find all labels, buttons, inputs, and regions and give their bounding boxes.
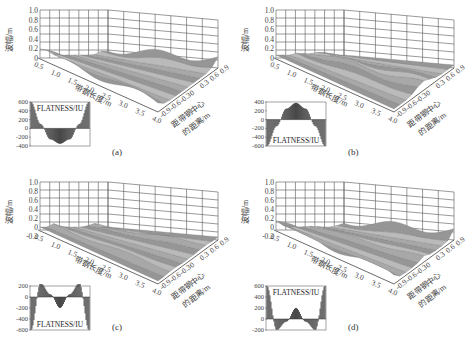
z-tick: 1.0 [29,178,39,187]
inset-tick: -400 [252,133,264,140]
x-tick: 3.5 [134,278,146,290]
inset-tick: 400 [254,100,264,105]
y-tick: 0.6 [208,70,221,83]
z-tick: 0.2 [265,214,275,223]
z-axis-label: 波幅/m [4,199,14,224]
z-tick: 0 [34,223,38,232]
y-tick: 0.6 [208,242,221,255]
inset-tick: -200 [252,326,264,333]
x-tick: 1.0 [286,67,298,79]
x-tick: 0.5 [33,232,45,244]
inset-label: FLATNESS/IU [273,288,320,297]
z-tick: 0.4 [29,35,39,44]
y-tick: 0.3 [198,249,211,262]
inset-tick: -200 [252,124,264,131]
z-tick: 0.6 [29,25,39,34]
inset-tick: 200 [254,107,264,114]
z-axis-label: 波幅/m [240,199,250,224]
x-tick: 3.0 [117,98,129,110]
z-tick: 0.6 [265,196,275,205]
wave-surface [40,224,218,281]
inset-tick: -600 [16,326,28,333]
inset-tick: 200 [18,284,28,289]
z-axis-label: 波幅/m [240,27,250,52]
x-tick: 3.5 [370,278,382,290]
panel-a: 1.00.80.60.40.20波幅/m0.51.01.52.02.53.03.… [0,0,237,172]
inset-tick: 0 [25,293,28,300]
inset-tick: 400 [254,293,264,300]
x-tick: 1.0 [286,239,298,251]
inset-tick: -200 [16,304,28,311]
inset-label: FLATNESS/IU [37,320,84,329]
z-tick: 0.4 [29,205,39,214]
x-tick: 1.0 [50,239,62,251]
y-tick: 0.6 [444,70,457,83]
z-tick: 1.0 [29,6,39,15]
z-tick: 1.0 [265,6,275,15]
x-tick: 0.5 [33,60,45,72]
z-tick: 0 [270,223,274,232]
inset-tick: -400 [16,142,28,149]
z-tick: 0.8 [29,187,39,196]
inset-tick: 0 [261,315,264,322]
z-tick: 0.4 [265,205,275,214]
y-tick: 0.9 [454,63,467,76]
flatness-inset: 6004002000-200-400FLATNESS/IU [4,100,92,150]
panel-caption: (c) [112,322,122,332]
y-tick: 0.9 [218,63,231,76]
inset-label: FLATNESS/IU [37,104,84,113]
panel-caption: (d) [348,322,359,332]
inset-tick: 0 [25,124,28,131]
x-tick: 3.0 [353,270,365,282]
inset-tick: 200 [254,304,264,311]
panel-b: 1.00.80.60.40.20波幅/m0.51.01.52.02.53.03.… [236,0,473,172]
x-tick: 3.0 [117,270,129,282]
inset-tick: 0 [261,116,264,123]
inset-label: FLATNESS/IU [273,136,320,145]
z-tick: 0.8 [265,187,275,196]
z-tick: 0.6 [265,25,275,34]
x-tick: 3.5 [134,106,146,118]
z-tick: 0.8 [29,16,39,25]
inset-tick: -600 [252,142,264,149]
inset-tick: 400 [18,107,28,114]
y-tick: 0.9 [454,235,467,248]
z-tick: 0.4 [265,35,275,44]
inset-tick: -200 [16,133,28,140]
z-tick: 0.2 [29,44,39,53]
panel-caption: (a) [112,147,122,157]
x-tick: 0.5 [269,232,281,244]
panel-d: 1.00.80.60.40.20-0.2波幅/m0.51.01.52.02.53… [236,172,473,344]
x-tick: 3.0 [353,98,365,110]
y-tick: 0.3 [434,249,447,262]
flatness-inset: 4002000-200-400-600FLATNESS/IU [240,100,328,150]
flatness-inset: 2000-200-400-600FLATNESS/IU [4,284,92,334]
flatness-inset: 6004002000-200FLATNESS/IU [240,284,328,334]
z-axis-label: 波幅/m [4,27,14,52]
x-tick: 1.0 [50,67,62,79]
z-tick: 0.2 [265,44,275,53]
z-tick: 0.6 [29,196,39,205]
inset-tick: 200 [18,116,28,123]
panel-caption: (b) [348,147,359,157]
inset-tick: 600 [254,284,264,289]
panel-c: 1.00.80.60.40.20-0.2波幅/m0.51.01.52.02.53… [0,172,237,344]
z-tick: 0.2 [29,214,39,223]
y-tick: 0.3 [198,77,211,90]
y-tick: 0.9 [218,235,231,248]
inset-tick: -400 [16,315,28,322]
x-tick: 0.5 [269,60,281,72]
z-tick: 0.8 [265,16,275,25]
z-tick: 1.0 [265,178,275,187]
inset-tick: 600 [18,100,28,105]
y-tick: 0.3 [434,77,447,90]
y-tick: 0.6 [444,242,457,255]
x-tick: 3.5 [370,106,382,118]
